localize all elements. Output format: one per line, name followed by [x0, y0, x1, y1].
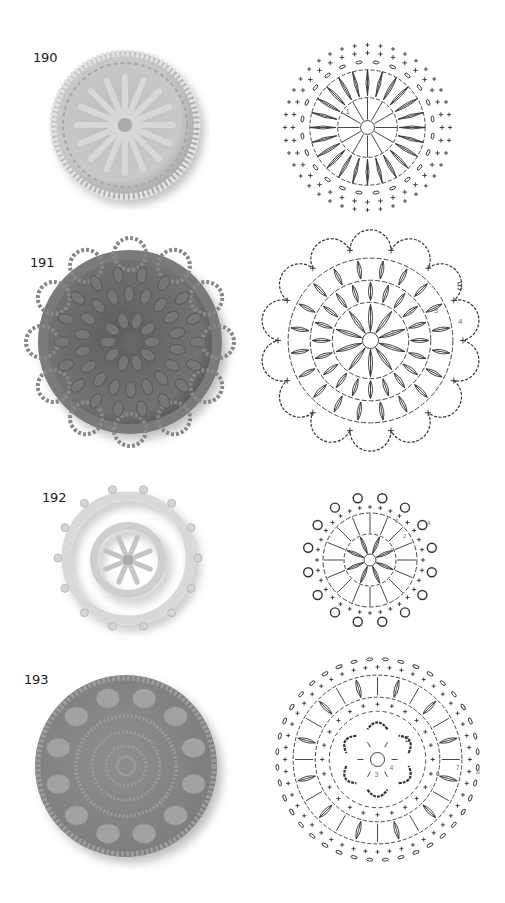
double-crochet-symbol [352, 518, 359, 536]
chain-symbol [298, 691, 304, 698]
puff-stitch-symbol [353, 158, 360, 183]
picot-symbol [378, 617, 387, 626]
motif-photo [50, 480, 210, 640]
puff-stitch-symbol [415, 284, 428, 297]
puff-stitch-symbol [394, 293, 405, 308]
chain-symbol [304, 149, 309, 156]
picot [140, 486, 148, 494]
picot-symbol [427, 543, 436, 552]
chain-symbol [426, 99, 431, 106]
round-label: 5 [457, 281, 463, 292]
motif-photo [20, 230, 240, 450]
chain-symbol [336, 850, 343, 855]
chain-symbol [289, 704, 295, 711]
puff-stitch [100, 337, 116, 347]
stitch-line [367, 742, 370, 747]
chain-ring [329, 711, 425, 807]
double-crochet-symbol [395, 570, 413, 577]
round-label: 2 [403, 533, 407, 539]
puff-stitch [182, 774, 206, 794]
puff-stitch-symbol [319, 701, 332, 714]
puff-stitch [96, 688, 120, 708]
chain-symbol [373, 61, 380, 65]
chain-symbol [404, 72, 411, 78]
chain-symbol [356, 191, 363, 195]
puff-stitch [134, 551, 151, 558]
puff-stitch-symbol [299, 304, 315, 312]
puff-stitch-symbol [395, 143, 417, 156]
double-crochet-symbol [433, 792, 449, 801]
chain-symbol [476, 748, 479, 755]
double-crochet-symbol [371, 134, 382, 153]
chain-symbol [431, 116, 435, 123]
puff-stitch [96, 824, 120, 844]
double-crochet-symbol [336, 815, 345, 831]
picot [187, 524, 195, 532]
round-label: 5 [405, 734, 410, 744]
chain-symbol [382, 858, 389, 861]
puff-stitch-symbol [349, 348, 365, 370]
chain-symbol [412, 850, 419, 855]
puff-stitch-symbol [327, 87, 345, 105]
puff-stitch-symbol [312, 136, 337, 143]
puff-stitch-symbol [423, 701, 436, 714]
chain-symbol [336, 664, 343, 669]
puff-stitch [119, 538, 126, 555]
chain-symbol [322, 842, 329, 848]
chain-symbol [324, 72, 331, 78]
puff-stitch-symbol [347, 550, 364, 557]
puff-stitch-symbol [314, 385, 327, 398]
puff-stitch [190, 337, 206, 347]
puff-stitch-symbol [376, 158, 383, 183]
double-crochet-symbol [410, 688, 419, 704]
chain-symbol [412, 664, 419, 669]
puff-stitch-symbol [403, 364, 418, 375]
picot [194, 554, 202, 562]
double-crochet-symbol [342, 113, 361, 124]
puff-stitch [132, 824, 156, 844]
picot [61, 524, 69, 532]
puff-stitch-symbol [336, 329, 362, 337]
puff-stitch [134, 562, 151, 569]
stitch-line [385, 772, 388, 777]
round-label: 6 [436, 770, 440, 777]
double-crochet-symbol [410, 815, 419, 831]
stitch-line [367, 772, 370, 777]
round-label: 4 [390, 764, 394, 771]
chain-symbol [289, 809, 295, 816]
picot-symbol [330, 608, 339, 617]
chain-symbol [324, 177, 331, 183]
chain-symbol [282, 794, 287, 801]
puff-stitch-symbol [376, 348, 392, 370]
puff-stitch-symbol [390, 150, 408, 168]
chain-symbol [351, 660, 358, 664]
chain-symbol [366, 658, 373, 661]
puff-stitch-symbol [299, 369, 315, 377]
puff-stitch [46, 774, 70, 794]
chain-symbol [304, 99, 309, 106]
chain-symbol [339, 186, 346, 191]
puff-stitch [182, 738, 206, 758]
round-label: 2 [409, 306, 414, 315]
chain-symbol [309, 680, 316, 686]
puff-stitch [126, 382, 136, 398]
double-crochet-symbol [328, 570, 346, 577]
picot [168, 499, 176, 507]
petal-chain [344, 766, 356, 783]
double-crochet-symbol [374, 131, 393, 142]
chain-symbol [417, 164, 423, 171]
chain-symbol [301, 133, 305, 140]
round-label: 4 [427, 520, 431, 526]
stitch-line [385, 742, 388, 747]
puff-stitch-symbol [334, 396, 342, 412]
puff-stitch-symbol [383, 155, 396, 177]
double-crochet-symbol [328, 542, 346, 549]
chain-symbol [417, 84, 423, 91]
puff-stitch-symbol [423, 805, 436, 818]
picot [54, 554, 62, 562]
picot [108, 622, 116, 630]
chain-symbol [301, 116, 305, 123]
picot-symbol [378, 494, 387, 503]
chain-symbol [356, 61, 363, 65]
double-crochet-symbol [352, 585, 359, 603]
